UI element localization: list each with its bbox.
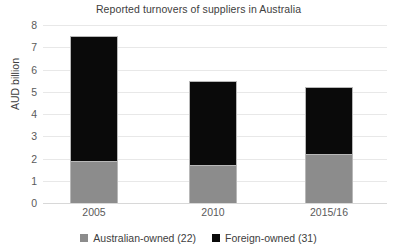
bar-chart: Reported turnovers of suppliers in Austr… — [0, 0, 397, 248]
x-axis-tick-labels: 200520102015/16 — [43, 206, 387, 222]
bar-segment-foreign-owned[interactable] — [70, 36, 118, 161]
bar-group[interactable] — [70, 25, 118, 203]
x-axis-line — [43, 203, 387, 204]
y-tick-label: 6 — [7, 65, 37, 76]
bar-group[interactable] — [189, 25, 237, 203]
y-tick-label: 3 — [7, 131, 37, 142]
y-tick-label: 8 — [7, 20, 37, 31]
y-tick-label: 4 — [7, 109, 37, 120]
bar-segment-australian-owned[interactable] — [189, 165, 237, 203]
bar-segment-australian-owned[interactable] — [70, 161, 118, 203]
y-axis-tick-labels: 876543210 — [6, 25, 37, 203]
black-square-icon — [212, 234, 220, 242]
plot-area — [43, 25, 387, 203]
x-tick-label: 2010 — [168, 206, 258, 218]
y-tick-label: 7 — [7, 42, 37, 53]
bar-segment-foreign-owned[interactable] — [305, 87, 353, 154]
legend-item-label: Australian-owned (22) — [93, 232, 196, 244]
gray-square-icon — [80, 234, 88, 242]
bar-segment-foreign-owned[interactable] — [189, 81, 237, 166]
chart-legend: Australian-owned (22)Foreign-owned (31) — [0, 230, 397, 246]
y-tick-label: 0 — [7, 198, 37, 209]
bar-group[interactable] — [305, 25, 353, 203]
x-tick-label: 2015/16 — [284, 206, 374, 218]
y-tick-label: 5 — [7, 87, 37, 98]
y-tick-label: 1 — [7, 176, 37, 187]
chart-title: Reported turnovers of suppliers in Austr… — [0, 3, 397, 15]
legend-item-label: Foreign-owned (31) — [225, 232, 317, 244]
legend-item[interactable]: Australian-owned (22) — [80, 232, 196, 244]
x-tick-label: 2005 — [49, 206, 139, 218]
bar-segment-australian-owned[interactable] — [305, 154, 353, 203]
legend-item[interactable]: Foreign-owned (31) — [212, 232, 317, 244]
y-tick-label: 2 — [7, 154, 37, 165]
